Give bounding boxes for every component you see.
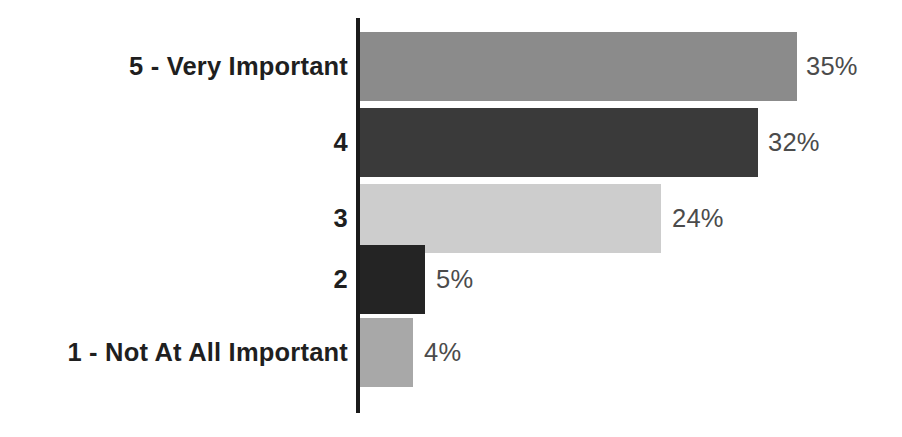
category-axis-line <box>356 18 360 413</box>
bar-row: 5 - Very Important 35% <box>0 32 902 101</box>
bar-category-label: 3 <box>334 184 348 253</box>
plot-area: 5 - Very Important 35% 4 32% 3 24% 2 5% … <box>0 0 902 437</box>
bar-rect <box>360 32 797 101</box>
bar-category-label: 5 - Very Important <box>129 32 348 101</box>
bar-value-label: 24% <box>672 184 724 253</box>
bar-value-label: 35% <box>806 32 858 101</box>
bar-rect <box>360 245 425 314</box>
bar-category-label: 2 <box>334 245 348 314</box>
bar-value-label: 32% <box>768 108 820 177</box>
bar-rect <box>360 108 758 177</box>
bar-value-label: 5% <box>436 245 473 314</box>
bar-category-label: 4 <box>334 108 348 177</box>
horizontal-bar-chart: 5 - Very Important 35% 4 32% 3 24% 2 5% … <box>0 0 902 437</box>
bar-row: 3 24% <box>0 184 902 253</box>
bar-rect <box>360 184 661 253</box>
bar-category-label: 1 - Not At All Important <box>67 318 348 387</box>
bar-row: 2 5% <box>0 245 902 314</box>
bar-rect <box>360 318 413 387</box>
bar-value-label: 4% <box>424 318 461 387</box>
bar-row: 4 32% <box>0 108 902 177</box>
bar-row: 1 - Not At All Important 4% <box>0 318 902 387</box>
